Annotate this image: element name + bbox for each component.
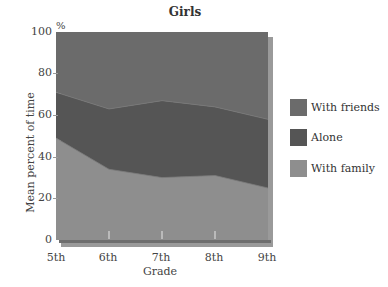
y-tick-label: 80 <box>28 66 52 79</box>
x-tick-label: 7th <box>146 251 176 264</box>
x-tick-label: 9th <box>252 251 282 264</box>
x-tick-label: 8th <box>199 251 229 264</box>
y-tick-mark <box>53 198 58 199</box>
y-tick-mark <box>53 115 58 116</box>
legend-item-with-friends: With friends <box>290 98 380 116</box>
legend-item-with-family: With family <box>290 159 375 177</box>
legend-label: With family <box>311 162 375 175</box>
y-tick-mark <box>53 157 58 158</box>
legend-swatch-icon <box>290 160 307 177</box>
x-tick-label: 5th <box>41 251 71 264</box>
y-tick-mark <box>53 73 58 74</box>
y-tick-label: 40 <box>28 150 52 163</box>
y-tick-label: 20 <box>28 191 52 204</box>
legend-swatch-icon <box>290 99 307 116</box>
y-tick-label: 60 <box>28 108 52 121</box>
legend-item-alone: Alone <box>290 128 343 146</box>
x-tick-label: 6th <box>93 251 123 264</box>
y-tick-label: 100 <box>28 25 52 38</box>
legend-label: Alone <box>311 131 343 144</box>
legend-label: With friends <box>311 101 380 114</box>
x-axis-label: Grade <box>140 265 180 278</box>
y-tick-label: 0 <box>28 233 52 246</box>
legend-swatch-icon <box>290 129 307 146</box>
